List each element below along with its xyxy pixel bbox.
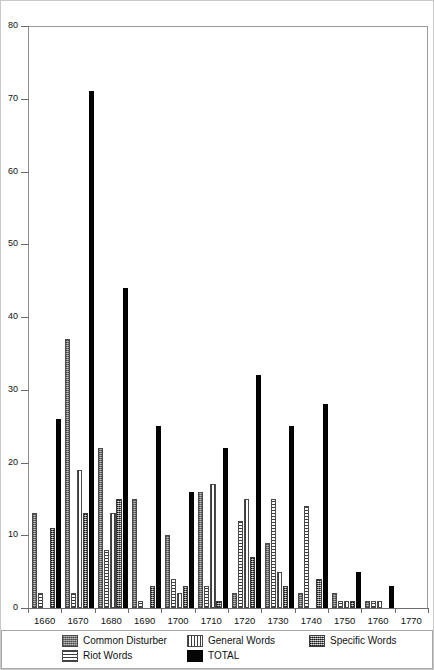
bar — [56, 419, 61, 608]
legend-swatch-specific-words — [309, 635, 325, 647]
bar — [156, 426, 161, 608]
bar-group — [365, 26, 395, 608]
bar-group — [32, 26, 62, 608]
bar — [338, 601, 343, 608]
x-axis-tick — [361, 608, 362, 613]
bar — [171, 579, 176, 608]
y-axis-tick-label: 80 — [0, 21, 18, 30]
bar — [244, 499, 249, 608]
bar — [204, 586, 209, 608]
bar — [50, 528, 55, 608]
legend-item-general-words: General Words — [187, 635, 309, 647]
bar — [371, 601, 376, 608]
x-axis-tick — [128, 608, 129, 613]
bar — [71, 593, 76, 608]
bar — [32, 513, 37, 608]
bar — [356, 572, 361, 608]
x-axis-tick-label: 1750 — [328, 616, 362, 626]
x-axis-tick — [61, 608, 62, 613]
x-axis-tick — [161, 608, 162, 613]
legend-item-common-disturber: Common Disturber — [62, 635, 187, 647]
y-axis-tick-label: 10 — [0, 530, 18, 539]
legend-label-common-disturber: Common Disturber — [83, 636, 167, 646]
y-axis-tick — [21, 317, 29, 318]
bar — [298, 593, 303, 608]
legend-row-1: Common Disturber General Words Specific … — [62, 635, 432, 650]
x-axis-tick-label: 1770 — [394, 616, 428, 626]
bar-group — [298, 26, 328, 608]
bar — [210, 484, 215, 608]
x-axis-tick-label: 1700 — [161, 616, 195, 626]
x-axis-tick — [261, 608, 262, 613]
bar-group — [332, 26, 362, 608]
bar — [256, 375, 261, 608]
chart-legend: Common Disturber General Words Specific … — [1, 630, 433, 669]
bar-group — [65, 26, 95, 608]
x-axis-tick — [28, 608, 29, 613]
bar — [344, 601, 349, 608]
legend-label-riot-words: Riot Words — [83, 651, 132, 661]
x-axis-tick-label: 1760 — [361, 616, 395, 626]
x-axis-tick-label: 1740 — [294, 616, 328, 626]
bar — [350, 601, 355, 608]
bar — [323, 404, 328, 608]
legend-swatch-general-words — [187, 635, 203, 647]
bar — [77, 470, 82, 608]
bar — [277, 572, 282, 608]
legend-swatch-riot-words — [62, 650, 78, 662]
x-axis-tick-label: 1680 — [94, 616, 128, 626]
legend-item-specific-words: Specific Words — [309, 635, 429, 647]
bar — [238, 521, 243, 608]
bar — [216, 601, 221, 608]
bar — [232, 593, 237, 608]
bar — [132, 499, 137, 608]
bar — [138, 601, 143, 608]
bar — [110, 513, 115, 608]
bar — [150, 586, 155, 608]
bar-groups — [29, 26, 428, 608]
y-axis-tick-label: 70 — [0, 94, 18, 103]
legend-item-riot-words: Riot Words — [62, 650, 187, 662]
x-axis-tick-label: 1730 — [261, 616, 295, 626]
y-axis-tick-label: 20 — [0, 458, 18, 467]
bar — [183, 586, 188, 608]
bar — [316, 579, 321, 608]
x-axis-tick — [195, 608, 196, 613]
legend-item-total: TOTAL — [187, 650, 309, 662]
bar — [123, 288, 128, 608]
bar — [165, 535, 170, 608]
x-axis-tick — [328, 608, 329, 613]
y-axis-tick-label: 40 — [0, 312, 18, 321]
x-axis-tick — [295, 608, 296, 613]
bar-chart: 01020304050607080 1660167016801690170017… — [0, 0, 434, 670]
bar — [332, 593, 337, 608]
x-axis-tick — [428, 608, 429, 613]
bar — [271, 499, 276, 608]
legend-row-2: Riot Words TOTAL — [62, 650, 432, 665]
legend-label-total: TOTAL — [208, 651, 239, 661]
y-axis-tick — [21, 463, 29, 464]
y-axis-tick — [21, 390, 29, 391]
y-axis-tick-label: 60 — [0, 167, 18, 176]
bar — [377, 601, 382, 608]
bar — [389, 586, 394, 608]
x-axis-tick-label: 1710 — [194, 616, 228, 626]
x-axis-tick — [395, 608, 396, 613]
bar-group — [232, 26, 262, 608]
bar — [265, 543, 270, 608]
bar-group — [165, 26, 195, 608]
bar — [177, 593, 182, 608]
y-axis-tick — [21, 244, 29, 245]
bar — [189, 492, 194, 608]
legend-label-general-words: General Words — [208, 636, 275, 646]
y-axis-tick — [21, 99, 29, 100]
y-axis-tick-label: 0 — [0, 603, 18, 612]
bar — [304, 506, 309, 608]
y-axis-tick-label: 30 — [0, 385, 18, 394]
bar — [283, 586, 288, 608]
y-axis-tick — [21, 535, 29, 536]
bar — [289, 426, 294, 608]
bar — [250, 557, 255, 608]
bar — [104, 550, 109, 608]
bar — [98, 448, 103, 608]
